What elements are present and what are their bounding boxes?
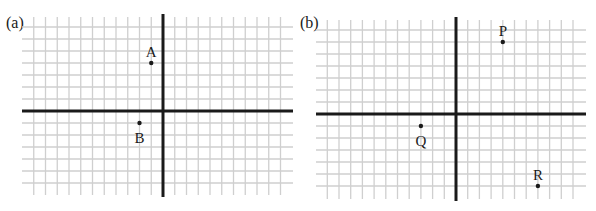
point-label-a: A xyxy=(146,44,157,60)
coordinate-figure: (a) AB (b) PQR xyxy=(0,0,596,211)
point-b xyxy=(137,121,141,125)
point-label-p: P xyxy=(499,23,507,39)
point-q xyxy=(419,124,423,128)
panel-a-axes xyxy=(22,14,293,197)
panel-b: (b) PQR xyxy=(300,14,586,201)
panel-a-label: (a) xyxy=(6,14,24,32)
point-label-q: Q xyxy=(415,133,426,149)
panel-a-grid xyxy=(22,17,293,195)
panel-a: (a) AB xyxy=(6,14,293,197)
panel-b-grid xyxy=(316,20,586,199)
panel-a-points: AB xyxy=(134,44,156,146)
point-a xyxy=(149,61,153,65)
point-label-b: B xyxy=(134,130,144,146)
panel-b-label: (b) xyxy=(300,14,319,32)
point-p xyxy=(501,40,505,44)
point-r xyxy=(536,184,540,188)
point-label-r: R xyxy=(533,167,543,183)
